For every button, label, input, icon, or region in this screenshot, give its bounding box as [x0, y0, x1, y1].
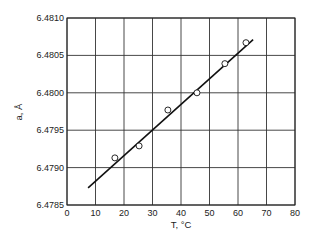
x-tick-label: 20 [119, 208, 129, 218]
x-tick-labels: 01020304050607080 [64, 208, 300, 218]
data-point-marker [222, 61, 228, 67]
data-point-marker [243, 40, 249, 46]
y-tick-label: 6.4785 [36, 200, 64, 210]
data-point-marker [194, 90, 200, 96]
y-tick-label: 6.4810 [36, 13, 64, 23]
x-tick-label: 40 [176, 208, 186, 218]
data-point-marker [112, 155, 118, 161]
x-tick-label: 30 [147, 208, 157, 218]
x-tick-label: 0 [64, 208, 69, 218]
data-point-marker [136, 143, 142, 149]
x-tick-label: 60 [233, 208, 243, 218]
y-tick-label: 6.4790 [36, 163, 64, 173]
y-tick-label: 6.4805 [36, 50, 64, 60]
data-point-marker [165, 107, 171, 113]
chart: 01020304050607080 6.47856.47906.47956.48… [0, 0, 318, 242]
y-tick-labels: 6.47856.47906.47956.48006.48056.4810 [36, 13, 64, 210]
x-tick-label: 80 [290, 208, 300, 218]
y-axis-label: a, Å [13, 103, 24, 121]
y-tick-label: 6.4800 [36, 88, 64, 98]
x-tick-label: 70 [261, 208, 271, 218]
y-tick-label: 6.4795 [36, 125, 64, 135]
data-points [112, 40, 249, 161]
x-tick-label: 50 [204, 208, 214, 218]
fit-line [88, 40, 253, 188]
x-axis-label: T, °C [171, 219, 192, 230]
x-tick-label: 10 [90, 208, 100, 218]
